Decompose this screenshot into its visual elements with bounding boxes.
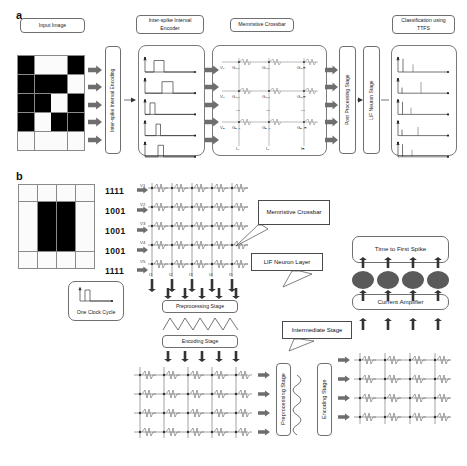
b-neuron-in-arrow-1 <box>384 290 392 301</box>
lif-neuron-0 <box>352 271 374 289</box>
arrow-bits-3 <box>137 247 148 254</box>
b-enc-out-arrow-2 <box>198 351 206 362</box>
b-br-in-arrow-3 <box>338 414 350 421</box>
b-amp-in-arrow-0 <box>359 318 367 330</box>
b-top-iout-1: I2 <box>169 272 173 277</box>
b-pre-in-arrow-2 <box>198 288 206 299</box>
b-neuron-out-arrow-2 <box>409 257 417 268</box>
b-top-current-arrow-0 <box>148 279 156 292</box>
lif-neuron-1 <box>377 271 399 289</box>
b-bl-out-arrow-3 <box>258 429 270 436</box>
b-bl-out-arrow-0 <box>258 372 270 379</box>
b-bl-out-arrow-1 <box>258 391 270 398</box>
b-amp-in-arrow-1 <box>384 318 392 330</box>
b-br-in-arrow-0 <box>338 357 350 364</box>
b-top-iout-2: I3 <box>189 272 193 277</box>
b-top-vin-2: V3 <box>140 221 146 226</box>
b-pre-in-arrow-1 <box>181 288 189 299</box>
b-top-vin-3: V4 <box>140 240 146 245</box>
callout-tail-intermediate <box>289 339 314 351</box>
b-enc-out-arrow-1 <box>181 351 189 362</box>
b-bottom-zigzag <box>293 375 301 435</box>
b-amp-in-arrow-3 <box>434 318 442 330</box>
b-top-vin-1: V2 <box>140 202 146 207</box>
b-neuron-in-arrow-0 <box>359 290 367 301</box>
b-enc-out-arrow-4 <box>232 351 240 362</box>
arrow-bits-4 <box>137 267 148 274</box>
b-br-in-arrow-2 <box>338 395 350 402</box>
b-enc-out-arrow-0 <box>164 351 172 362</box>
b-pre-in-arrow-3 <box>215 288 223 299</box>
b-br-in-arrow-1 <box>338 376 350 383</box>
lif-neuron-2 <box>402 271 424 289</box>
figure-root: a Input Image Inter-spike Interval Encod… <box>0 0 467 466</box>
b-neuron-in-arrow-3 <box>434 290 442 301</box>
b-top-vin-0: V1 <box>140 183 146 188</box>
b-zigzag-encoding <box>163 318 238 330</box>
clock-pulse <box>85 290 112 301</box>
b-top-iout-3: I4 <box>209 272 213 277</box>
b-neuron-out-arrow-1 <box>384 257 392 268</box>
panel-b-vectors: V1V2V3V4V5I1I2I3I4I5 <box>0 0 467 466</box>
b-neuron-out-arrow-0 <box>359 257 367 268</box>
callout-tail-lif <box>283 271 312 287</box>
clock-yarrow <box>78 287 81 291</box>
callout-tail-crossbar <box>236 225 268 246</box>
arrow-bits-1 <box>137 207 148 214</box>
b-top-current-arrow-3 <box>208 279 216 292</box>
b-top-vin-4: V5 <box>140 259 146 264</box>
b-top-iout-4: I5 <box>229 272 233 277</box>
lif-neuron-3 <box>427 271 449 289</box>
arrow-bits-0 <box>137 187 148 194</box>
b-neuron-in-arrow-2 <box>409 290 417 301</box>
b-enc-out-arrow-3 <box>215 351 223 362</box>
b-bl-out-arrow-2 <box>258 410 270 417</box>
b-neuron-out-arrow-3 <box>434 257 442 268</box>
b-amp-in-arrow-2 <box>409 318 417 330</box>
b-top-current-arrow-2 <box>188 279 196 292</box>
b-top-iout-0: I1 <box>149 272 153 277</box>
arrow-bits-2 <box>137 227 148 234</box>
